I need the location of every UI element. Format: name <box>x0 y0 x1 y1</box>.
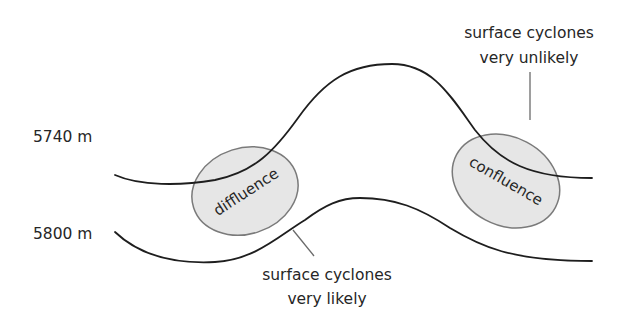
contour-label-5800: 5800 m <box>33 225 92 243</box>
annotation-unlikely-line1: surface cyclones <box>464 24 594 42</box>
height-contour-diagram: diffluence confluence 5740 m 5800 m surf… <box>0 0 617 328</box>
annotation-likely-line2: very likely <box>287 290 366 308</box>
contour-label-5740: 5740 m <box>33 128 92 146</box>
annotation-unlikely-line2: very unlikely <box>480 49 579 67</box>
contour-5740 <box>115 64 592 184</box>
annotation-likely-line1: surface cyclones <box>262 266 392 284</box>
leader-line-likely <box>293 230 314 256</box>
